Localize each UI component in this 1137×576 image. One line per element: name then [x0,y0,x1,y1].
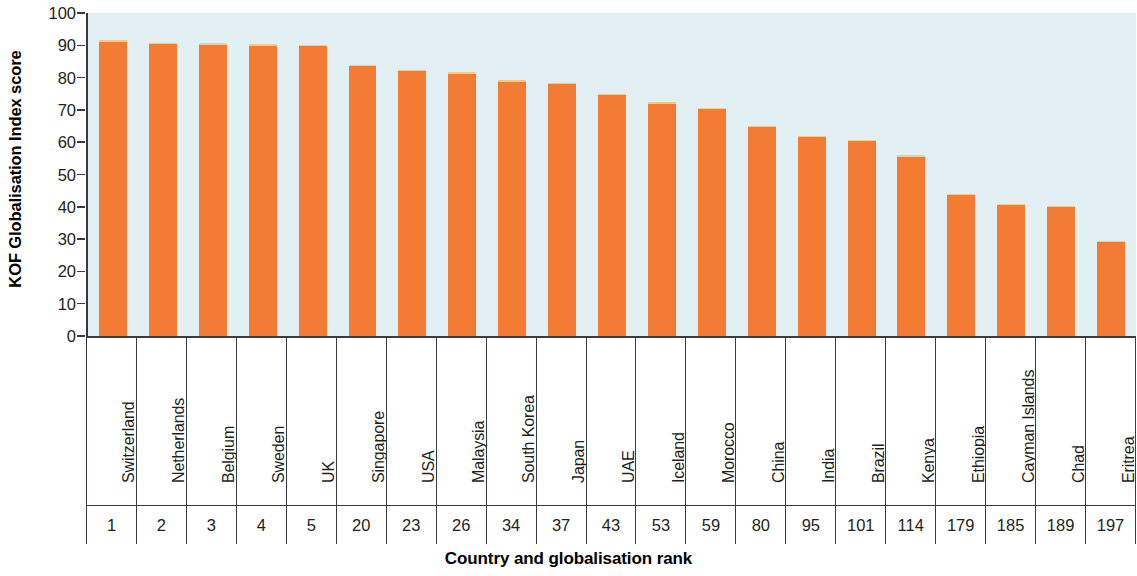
y-axis-tick-mark [77,303,85,305]
country-label-cell: Malaysia [437,338,487,505]
rank-label: 179 [936,506,986,544]
bar-chart: KOF Globalisation Index score 1009080706… [0,0,1137,576]
rank-label: 26 [437,506,487,544]
y-axis-tick-label: 50 [58,166,76,184]
y-axis-tick-mark [77,45,85,47]
bar-slot [687,13,737,336]
bar [448,72,476,336]
rank-label: 114 [886,506,936,544]
y-axis-tick-mark [77,109,85,111]
country-label-cell: Japan [537,338,587,505]
bar [848,140,876,336]
country-label-cell: Chad [1036,338,1086,505]
y-axis-tick-mark [77,206,85,208]
bar [398,70,426,336]
rank-label: 37 [537,506,587,544]
bar [748,126,776,336]
y-axis-tick-mark [77,12,85,14]
y-axis-tick-mark [77,238,85,240]
country-label: Sweden [270,426,286,483]
rank-label: 1 [86,506,137,544]
country-label: India [820,449,836,483]
rank-band: 1234520232634374353598095101114179185189… [86,506,1136,544]
bar [548,83,576,336]
rank-label: 95 [786,506,836,544]
country-label-cell: Brazil [836,338,886,505]
bar-slot [88,13,138,336]
country-label: USA [420,450,436,483]
y-axis-tick-label: 20 [58,262,76,280]
country-label: Brazil [870,444,886,483]
country-label: Chad [1070,445,1086,483]
y-axis-tick-label: 60 [58,133,76,151]
country-label-cell: Cayman Islands [986,338,1036,505]
bar [1097,241,1125,336]
y-axis-tick-label: 80 [58,69,76,87]
bar-slot [1086,13,1136,336]
bar-slot [587,13,637,336]
bar [299,45,327,336]
country-label: UAE [620,450,636,483]
bar-slot [887,13,937,336]
bar-slot [387,13,437,336]
bar-slot [537,13,587,336]
y-axis-title: KOF Globalisation Index score [2,0,28,338]
rank-label: 43 [587,506,637,544]
y-axis: 1009080706050403020100 [26,0,86,350]
country-label: Kenya [920,438,936,483]
bar [249,44,277,336]
country-label-cell: China [736,338,786,505]
x-axis-title: Country and globalisation rank [0,549,1137,569]
y-axis-tick-mark [77,141,85,143]
y-axis-tick-label: 10 [58,295,76,313]
country-label: Iceland [670,432,686,483]
country-label: Singapore [370,411,386,483]
y-axis-tick-label: 40 [58,198,76,216]
country-label-cell: Ethiopia [936,338,986,505]
y-axis-tick-mark [77,77,85,79]
bar-slot [637,13,687,336]
country-label: South Korea [520,395,536,483]
bar-slot [986,13,1036,336]
bar-slot [737,13,787,336]
country-label-cell: Kenya [886,338,936,505]
country-label-cell: Sweden [237,338,287,505]
rank-label: 53 [636,506,686,544]
country-label: Cayman Islands [1020,370,1036,483]
y-axis-tick-mark [77,335,85,337]
y-axis-tick-mark [77,271,85,273]
bar-slot [1036,13,1086,336]
y-axis-tick-label: 90 [58,36,76,54]
rank-label: 34 [487,506,537,544]
bar-slot [487,13,537,336]
country-label: Belgium [220,426,236,483]
bar-slot [288,13,338,336]
country-label: UK [320,461,336,483]
y-axis-tick-label: 30 [58,230,76,248]
bar [1047,206,1075,336]
rank-label: 4 [237,506,287,544]
country-label-band: SwitzerlandNetherlandsBelgiumSwedenUKSin… [86,338,1136,506]
bar [997,204,1025,336]
bar-slot [188,13,238,336]
country-label: Malaysia [470,421,486,483]
plot-area [86,13,1136,336]
country-label-cell: UAE [587,338,637,505]
bar [897,155,925,336]
country-label-cell: Switzerland [86,338,137,505]
y-axis-tick-mark [77,174,85,176]
bar [149,43,177,336]
country-label-cell: Eritrea [1086,338,1136,505]
bar [498,80,526,336]
y-axis-tick-label: 70 [58,101,76,119]
bar-slot [138,13,188,336]
rank-label: 80 [736,506,786,544]
bar [947,194,975,336]
country-label-cell: UK [287,338,337,505]
country-label: Japan [570,440,586,483]
country-label-cell: South Korea [487,338,537,505]
rank-label: 3 [187,506,237,544]
bar [349,65,377,336]
bar-slot [437,13,487,336]
country-label: Switzerland [120,401,136,483]
